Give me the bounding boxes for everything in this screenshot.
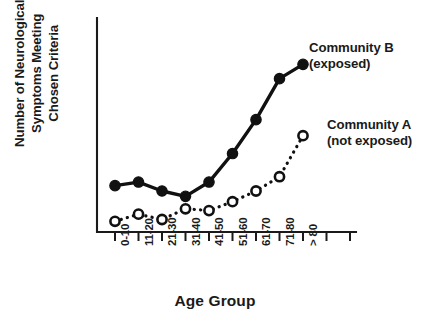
x-axis-tick-label: 11-20 [144, 218, 156, 246]
annotation-community-a-line1: Community A [327, 117, 411, 132]
annotation-community-a-line2: (not exposed) [327, 133, 412, 149]
data-point-marker [227, 148, 237, 158]
x-axis-tick-label: 51-60 [238, 218, 250, 246]
data-point-marker [133, 177, 143, 187]
chart-series [110, 59, 308, 226]
x-axis-tick-label: > 80 [308, 224, 320, 246]
x-axis-tick-label: 21-30 [167, 218, 179, 246]
x-axis-tick-label: 71-80 [285, 218, 297, 246]
y-axis-title-line: Chosen Criteria [45, 0, 62, 188]
data-point-marker [204, 206, 213, 215]
y-axis-title-line: Number of Neurological [12, 0, 29, 188]
data-point-marker [204, 177, 214, 187]
data-point-marker [251, 114, 261, 124]
data-point-marker [298, 131, 307, 140]
annotation-community-a: Community A (not exposed) [327, 117, 412, 150]
data-point-marker [251, 186, 260, 195]
y-axis-title: Number of NeurologicalSymptoms MeetingCh… [12, 0, 63, 188]
annotation-community-b-line2: (exposed) [309, 56, 394, 72]
data-point-marker [157, 186, 167, 196]
data-point-marker [274, 73, 284, 83]
x-axis-tick-label: 61-70 [261, 218, 273, 246]
x-axis-title: Age Group [0, 292, 430, 310]
data-point-marker [275, 172, 284, 181]
data-point-marker [181, 204, 190, 213]
data-point-marker [110, 180, 120, 190]
x-axis-tick-label: 0-10 [120, 224, 132, 246]
annotation-community-b: Community B (exposed) [309, 40, 394, 73]
data-point-marker [298, 59, 308, 69]
x-axis-tick-label: 41-50 [214, 218, 226, 246]
data-point-marker [180, 191, 190, 201]
annotation-community-b-line1: Community B [309, 40, 394, 55]
x-axis-tick-label: 31-40 [191, 218, 203, 246]
data-point-marker [134, 210, 143, 219]
chart-figure: 0-1011-2021-3031-4041-5051-6061-7071-80>… [0, 0, 430, 321]
data-point-marker [228, 197, 237, 206]
y-axis-title-line: Symptoms Meeting [29, 0, 46, 188]
